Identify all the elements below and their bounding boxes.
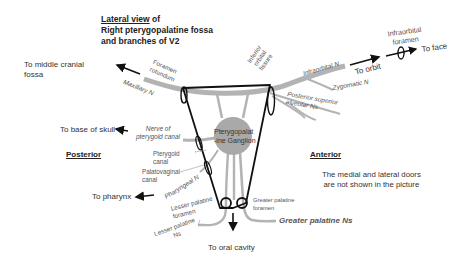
note-line-2: are not shown in the picture (322, 180, 421, 190)
arrow-face (386, 49, 416, 56)
label-pterygoid-canal: Pterygoid canal (153, 150, 183, 166)
title-underlined: Lateral view (101, 14, 150, 24)
ganglion-line-1: Pterygopalat (214, 127, 252, 136)
label-anterior: Anterior (310, 150, 341, 159)
label-palatovaginal-canal: Palatovaginal canal (142, 168, 184, 184)
title-line-2: Right pterygopalatine fossa (101, 25, 213, 36)
label-nerve-of-pterygoid-canal: Nerve of pterygoid canal (133, 125, 183, 141)
label-to-oral-cavity: To oral cavity (208, 243, 255, 253)
note-line-1: The medial and lateral doors (322, 170, 421, 180)
label-pterygopalatine-ganglion: Pterygopalat -ine Ganglion (214, 127, 252, 145)
zygomatic-nerve (305, 78, 333, 90)
title-rest: of (150, 14, 160, 24)
label-greater-palatine-nerves: Greater palatine Ns (279, 216, 352, 225)
title-line-3: and branches of V2 (101, 36, 213, 47)
arrow-base-of-skull (116, 129, 128, 131)
label-greater-palatine-foramen: Greater palatine foramen (253, 196, 303, 212)
arrow-middle-cranial-fossa (117, 65, 140, 74)
ganglion-line-2: -ine Ganglion (214, 136, 252, 145)
arrow-pharynx (136, 195, 154, 197)
label-posterior: Posterior (66, 150, 101, 159)
lesser-palatine-nerve (198, 152, 228, 225)
label-to-base-of-skull: To base of skull (60, 125, 115, 135)
diagram-title: Lateral view of Right pterygopalatine fo… (101, 14, 213, 47)
label-to-pharynx: To pharynx (92, 192, 131, 202)
label-to-middle-cranial-fossa: To middle cranial fossa (24, 60, 104, 80)
note-text: The medial and lateral doors are not sho… (322, 170, 421, 190)
